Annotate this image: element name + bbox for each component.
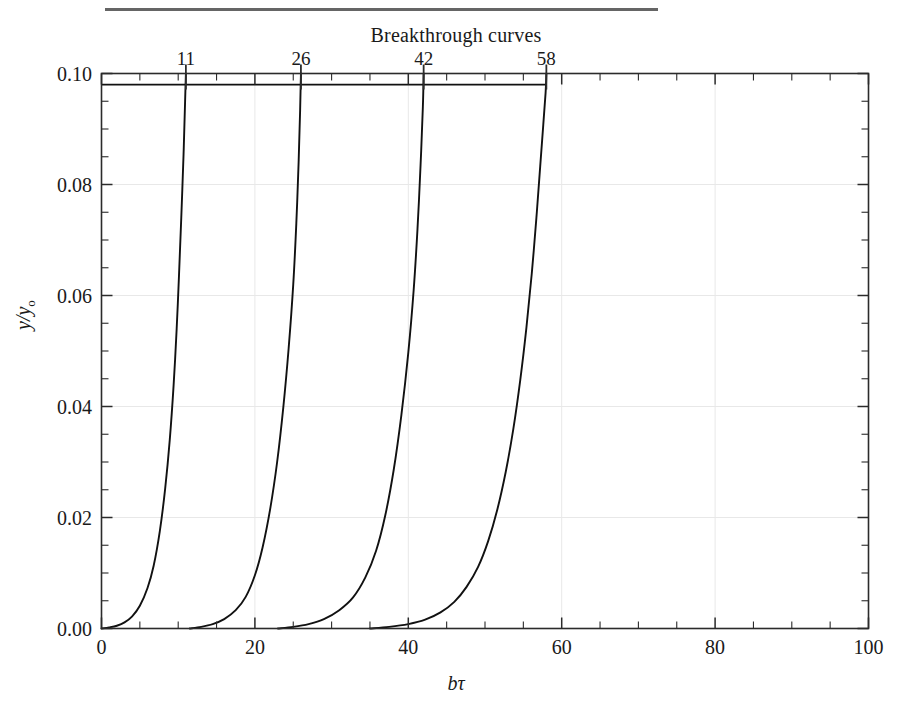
x-axis-label: bτ xyxy=(0,672,912,695)
x-tick-label-0: 0 xyxy=(97,636,107,659)
y-tick-label-0.06: 0.06 xyxy=(10,284,92,307)
x-tick-label-40: 40 xyxy=(398,636,418,659)
x-tick-label-60: 60 xyxy=(552,636,572,659)
y-tick-label-0.04: 0.04 xyxy=(10,395,92,418)
chart-plot-area xyxy=(0,0,912,718)
axes-frame xyxy=(102,74,869,629)
y-tick-label-0.10: 0.10 xyxy=(10,62,92,85)
curve-58 xyxy=(370,74,546,629)
x-tick-label-100: 100 xyxy=(854,636,884,659)
gridlines xyxy=(102,74,869,629)
top-tick-label-58: 58 xyxy=(537,48,556,70)
top-tick-label-42: 42 xyxy=(414,48,433,70)
breakthrough-curves-figure: Breakthrough curves y/yo bτ 11264258 0.0… xyxy=(0,0,912,718)
y-tick-label-0.02: 0.02 xyxy=(10,506,92,529)
x-tick-label-20: 20 xyxy=(245,636,265,659)
x-tick-label-80: 80 xyxy=(705,636,725,659)
y-tick-label-0.00: 0.00 xyxy=(10,617,92,640)
chart-title: Breakthrough curves xyxy=(0,24,912,47)
curve-11 xyxy=(102,74,186,629)
curve-26 xyxy=(190,74,301,629)
top-tick-label-11: 11 xyxy=(177,48,195,70)
y-tick-label-0.08: 0.08 xyxy=(10,173,92,196)
top-tick-label-26: 26 xyxy=(291,48,310,70)
y-axis-label-main: y/y xyxy=(12,307,34,330)
curve-lines xyxy=(102,74,547,629)
curve-42 xyxy=(278,74,424,629)
tick-marks xyxy=(102,65,869,629)
